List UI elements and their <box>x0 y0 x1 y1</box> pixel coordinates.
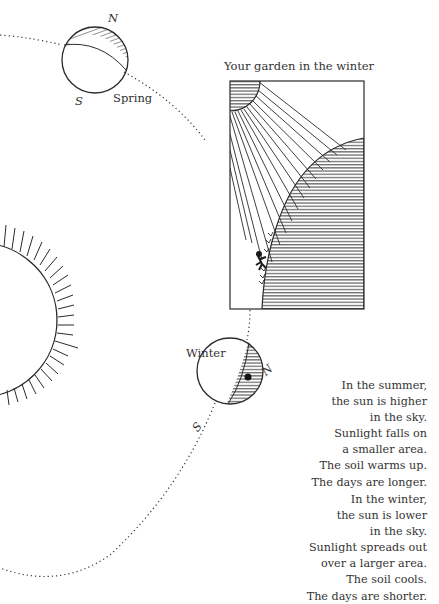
winter-line: over a larger area. <box>307 556 427 572</box>
summer-line: In the summer, <box>312 378 427 394</box>
spring-north-label: N <box>108 11 118 25</box>
spring-label: Spring <box>113 91 152 105</box>
summer-line: The days are longer. <box>312 475 427 491</box>
winter-line: the sun is lower <box>307 508 427 524</box>
summer-line: a smaller area. <box>312 442 427 458</box>
person-icon <box>256 252 266 270</box>
summer-line: the sun is higher <box>312 394 427 410</box>
figure-title: Your garden in the winter <box>224 59 374 73</box>
spring-south-label: S <box>75 94 83 108</box>
winter-line: Sunlight spreads out <box>307 540 427 556</box>
winter-label: Winter <box>186 346 226 360</box>
earth-spring-icon <box>62 0 128 93</box>
winter-line: In the winter, <box>307 492 427 508</box>
winter-line: The soil cools. <box>307 572 427 588</box>
winter-paragraph: In the winter, the sun is lower in the s… <box>307 492 427 604</box>
summer-line: in the sky. <box>312 410 427 426</box>
summer-paragraph: In the summer, the sun is higher in the … <box>312 378 427 491</box>
winter-line: The days are shorter. <box>307 589 427 604</box>
summer-line: The soil warms up. <box>312 458 427 474</box>
winter-line: in the sky. <box>307 524 427 540</box>
summer-line: Sunlight falls on <box>312 426 427 442</box>
garden-winter-diagram <box>200 51 364 309</box>
sun-icon <box>0 225 78 405</box>
